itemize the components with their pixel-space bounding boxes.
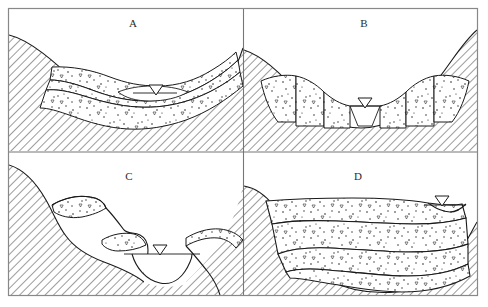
- panel-label-b: B: [360, 17, 368, 29]
- panel-d-content: [244, 186, 477, 295]
- valley-terrace-figure: A B C D: [0, 0, 488, 307]
- panel-label-c: C: [125, 170, 133, 182]
- channel-water-fill-c: [144, 254, 187, 287]
- panel-label-a: A: [129, 17, 137, 29]
- panel-label-d: D: [354, 170, 362, 182]
